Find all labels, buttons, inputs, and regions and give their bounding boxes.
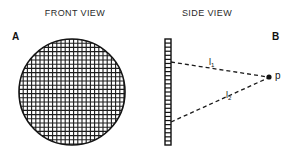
point-p-marker: [266, 74, 271, 79]
ray-label-l2-sub: 2: [228, 95, 231, 101]
side-view-diagram: [150, 34, 288, 152]
point-p-label: p: [275, 70, 281, 81]
ray-lines: [171, 62, 268, 122]
front-view-mesh-disc: [14, 34, 132, 152]
optics-figure: FRONT VIEW SIDE VIEW A B l1 l2 p: [0, 0, 288, 158]
disc-outline: [19, 39, 125, 145]
ray-label-l1-sub: 1: [211, 62, 214, 68]
mesh-grid: [17, 37, 127, 147]
ray-label-l2: l2: [226, 90, 231, 100]
ray-label-l1: l1: [209, 57, 214, 67]
side-view-title: SIDE VIEW: [160, 8, 254, 18]
front-view-title: FRONT VIEW: [26, 8, 124, 18]
grating-bar: [165, 39, 171, 145]
